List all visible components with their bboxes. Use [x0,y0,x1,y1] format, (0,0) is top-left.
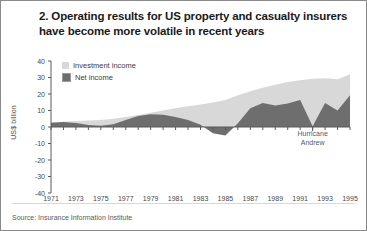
annotation-line-2: Andrew [285,139,341,148]
x-tick-label: 1981 [164,195,188,202]
y-tick-label: 10 [23,107,45,114]
x-tick-label: 1975 [89,195,113,202]
annotation-hurricane-andrew: Hurricane Andrew [285,130,341,147]
legend-item-1: Net income [62,72,136,82]
y-tick-label: 40 [23,58,45,65]
x-tick-label: 1979 [139,195,163,202]
legend-swatch-icon [62,73,71,82]
x-tick-label: 1973 [64,195,88,202]
x-tick-label: 1989 [263,195,287,202]
x-tick-label: 1977 [114,195,138,202]
y-tick-label: -10 [23,140,45,147]
chart-figure: 2. Operating results for US property and… [0,0,367,231]
y-tick-label: 0 [23,124,45,131]
source-note: Source: Insurance Information Institute [12,214,132,221]
x-tick-label: 1991 [288,195,312,202]
x-tick-label: 1985 [213,195,237,202]
y-tick-label: -20 [23,157,45,164]
x-tick-label: 1995 [338,195,362,202]
legend-label: Investment income [73,61,136,70]
legend-swatch-icon [62,62,69,69]
chart-legend: Investment incomeNet income [62,60,136,84]
y-tick-label: 20 [23,91,45,98]
y-tick-label: 30 [23,74,45,81]
annotation-line-1: Hurricane [285,130,341,139]
x-tick-label: 1983 [189,195,213,202]
legend-label: Net income [75,73,113,82]
y-tick-label: -30 [23,173,45,180]
legend-item-0: Investment income [62,60,136,70]
x-tick-label: 1971 [39,195,63,202]
y-axis-title: US$ billion [10,87,17,159]
x-tick-label: 1993 [313,195,337,202]
x-tick-label: 1987 [238,195,262,202]
plot-area: US$ billion 403020100-10-20-30-40 197119… [1,1,367,231]
footer-divider [12,203,355,204]
